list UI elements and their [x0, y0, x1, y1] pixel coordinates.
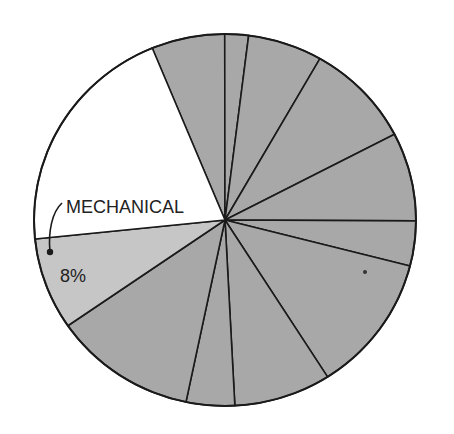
percent-label: 8% [60, 266, 86, 286]
mechanical-label: MECHANICAL [66, 197, 184, 217]
leader-dot [47, 249, 53, 255]
stray-dot [363, 270, 367, 274]
pie-slices [34, 34, 416, 406]
pie-chart: MECHANICAL 8% [0, 0, 454, 434]
